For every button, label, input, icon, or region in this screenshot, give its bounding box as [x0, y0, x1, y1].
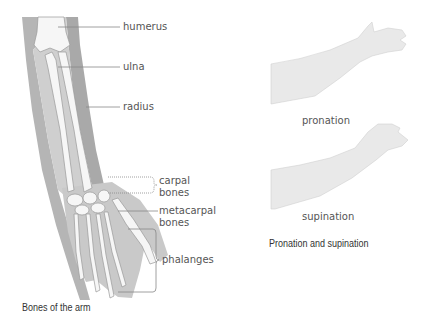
- label-radius: radius: [123, 101, 154, 113]
- supination-arm: [271, 124, 408, 209]
- label-metacarpal-bones-1: metacarpal: [159, 205, 216, 217]
- humerus-bone: [34, 17, 70, 52]
- diagram-canvas: [0, 0, 439, 323]
- caption-pronation-and-supination: Pronation and supination: [269, 238, 369, 249]
- label-humerus: humerus: [123, 21, 167, 33]
- label-metacarpal-bones-2: bones: [159, 217, 189, 229]
- arm-silhouette: [22, 17, 168, 300]
- label-carpal-bones-2: bones: [159, 187, 189, 199]
- caption-bones-of-the-arm: Bones of the arm: [22, 302, 91, 313]
- label-phalanges: phalanges: [162, 254, 214, 266]
- label-carpal-bones-1: carpal: [159, 175, 190, 187]
- label-pronation: pronation: [302, 115, 350, 127]
- label-supination: supination: [302, 211, 354, 223]
- pronation-arm: [271, 22, 406, 104]
- label-ulna: ulna: [123, 61, 145, 73]
